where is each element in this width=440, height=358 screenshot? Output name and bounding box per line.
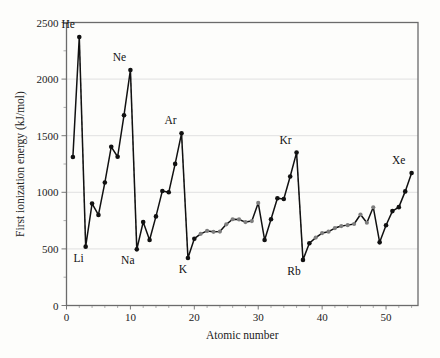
x-tick-label: 10 xyxy=(125,311,137,323)
element-label-xe: Xe xyxy=(392,154,405,166)
data-point xyxy=(83,244,88,249)
data-point xyxy=(256,201,260,205)
element-label-kr: Kr xyxy=(280,134,292,146)
data-point xyxy=(352,222,356,226)
data-point xyxy=(122,113,127,118)
data-point xyxy=(294,150,299,155)
data-point xyxy=(211,230,215,234)
data-point xyxy=(141,220,146,225)
data-point xyxy=(320,231,324,235)
data-point xyxy=(237,217,241,221)
data-point xyxy=(390,209,395,214)
x-tick-label: 50 xyxy=(381,311,393,323)
element-label-li: Li xyxy=(74,252,84,264)
data-point xyxy=(307,241,312,246)
data-point xyxy=(109,144,114,149)
y-tick-label: 2500 xyxy=(37,17,60,29)
data-point xyxy=(243,220,247,224)
x-tick-label: 40 xyxy=(317,311,329,323)
data-point xyxy=(269,217,274,222)
data-point xyxy=(301,258,306,263)
data-point xyxy=(326,230,330,234)
data-point xyxy=(333,226,337,230)
data-point xyxy=(199,232,203,236)
data-point xyxy=(218,229,222,233)
data-point xyxy=(262,238,267,243)
data-point xyxy=(384,223,389,228)
ionization-energy-chart: 05001000150020002500 01020304050 HeNeArK… xyxy=(0,0,440,358)
data-point xyxy=(275,196,280,201)
data-point xyxy=(281,197,286,202)
data-point xyxy=(147,238,152,243)
data-point xyxy=(179,131,184,136)
data-point xyxy=(71,155,76,160)
data-point xyxy=(154,214,159,219)
data-point xyxy=(166,190,171,195)
element-label-k: K xyxy=(179,263,188,275)
data-point xyxy=(224,222,228,226)
x-axis-title: Atomic number xyxy=(206,329,279,341)
y-tick-label: 2000 xyxy=(37,73,60,85)
data-point xyxy=(160,189,165,194)
x-tick-label: 30 xyxy=(253,311,265,323)
element-label-rb: Rb xyxy=(287,265,301,277)
data-point xyxy=(77,35,82,40)
element-label-na: Na xyxy=(121,254,134,266)
data-point xyxy=(339,224,343,228)
element-label-ar: Ar xyxy=(164,114,176,126)
data-point xyxy=(403,189,408,194)
data-point xyxy=(365,221,369,225)
x-tick-label: 20 xyxy=(189,311,201,323)
element-label-he: He xyxy=(62,18,75,30)
data-point xyxy=(371,205,375,209)
data-point xyxy=(96,213,101,218)
data-point xyxy=(135,247,140,252)
y-tick-label: 500 xyxy=(42,243,59,255)
data-point xyxy=(409,171,414,176)
data-point xyxy=(377,240,382,245)
y-tick-label: 1500 xyxy=(37,130,60,142)
data-point xyxy=(250,219,254,223)
x-tick-label: 0 xyxy=(64,311,70,323)
data-point xyxy=(90,201,95,206)
data-point xyxy=(288,174,293,179)
data-point xyxy=(397,205,402,210)
data-point xyxy=(231,217,235,221)
data-point xyxy=(186,256,191,261)
y-axis-title: First ionization energy (kJ/mol) xyxy=(14,91,27,237)
y-tick-label: 1000 xyxy=(37,186,60,198)
data-point xyxy=(205,229,209,233)
data-point xyxy=(103,180,108,185)
data-point xyxy=(173,162,178,167)
data-point xyxy=(192,236,197,241)
data-point xyxy=(358,212,362,216)
y-tick-label: 0 xyxy=(53,300,59,312)
element-label-ne: Ne xyxy=(113,51,126,63)
chart-canvas: 05001000150020002500 01020304050 HeNeArK… xyxy=(0,0,440,358)
data-point xyxy=(314,235,318,239)
data-point xyxy=(128,68,133,73)
data-point xyxy=(115,154,120,159)
data-point xyxy=(346,223,350,227)
